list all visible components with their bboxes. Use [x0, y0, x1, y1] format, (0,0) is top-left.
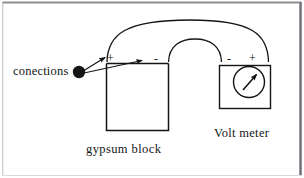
gypsum-block-label: gypsum block [86, 142, 161, 157]
gypsum-terminal-negative: - [154, 53, 158, 65]
needle-icon [243, 75, 257, 91]
connections-label: conections [13, 64, 68, 79]
wire-group [107, 20, 269, 62]
gypsum-terminal-positive: + [107, 52, 114, 64]
filled-circle-node [73, 66, 85, 78]
voltmeter-terminal-negative: - [227, 53, 231, 65]
volt-meter-shape [220, 66, 271, 109]
voltmeter-terminal-positive: + [249, 52, 256, 64]
volt-meter-label: Volt meter [214, 126, 269, 141]
inner-wire [169, 39, 222, 62]
gypsum-block-shape [107, 64, 169, 131]
diagram-canvas: + - - + conections gypsum block Volt met… [0, 0, 304, 178]
outer-wire [107, 20, 269, 62]
